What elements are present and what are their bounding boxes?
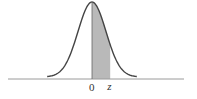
- z-label: z: [107, 80, 111, 92]
- normal-curve-diagram: [0, 0, 197, 99]
- zero-label: 0: [89, 81, 95, 93]
- shaded-area-0-to-z: [92, 2, 110, 79]
